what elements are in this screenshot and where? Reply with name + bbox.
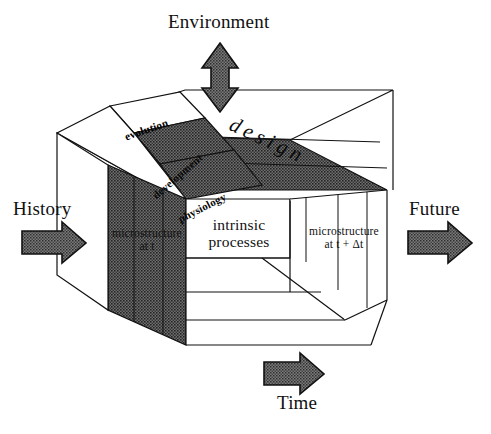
environment-label: Environment xyxy=(168,11,269,33)
left-face-label: microstructure at t xyxy=(104,227,190,252)
history-label: History xyxy=(13,198,71,220)
left-outer-wall xyxy=(57,133,108,310)
front-face-label-line1: intrinsic xyxy=(192,216,286,233)
left-face-label-line2: at t xyxy=(104,240,190,253)
time-label: Time xyxy=(277,392,317,414)
time-arrow xyxy=(264,353,324,394)
right-face-label-line2: at t + Δt xyxy=(300,238,388,251)
diagram-canvas: Environment History Future Time design e… xyxy=(0,0,491,434)
future-arrow xyxy=(408,222,472,263)
front-face-label: intrinsic processes xyxy=(192,216,286,250)
future-label: Future xyxy=(409,198,460,220)
right-face-label: microstructure at t + Δt xyxy=(300,225,388,250)
right-face-label-line1: microstructure xyxy=(300,225,388,238)
front-face-label-line2: processes xyxy=(192,233,286,250)
left-face-label-line1: microstructure xyxy=(104,227,190,240)
